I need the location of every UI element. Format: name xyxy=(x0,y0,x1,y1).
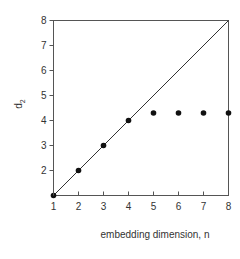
y-tick-label: 8 xyxy=(41,15,47,26)
data-point xyxy=(176,110,182,116)
data-point xyxy=(226,110,232,116)
y-tick-label: 6 xyxy=(41,65,47,76)
y-axis-ticks: 2345678 xyxy=(41,15,54,176)
x-tick-label: 2 xyxy=(76,201,82,212)
x-tick-label: 5 xyxy=(151,201,157,212)
y-tick-label: 3 xyxy=(41,140,47,151)
x-tick-label: 4 xyxy=(126,201,132,212)
data-point xyxy=(151,110,157,116)
data-point xyxy=(201,110,207,116)
data-markers xyxy=(51,110,232,198)
y-tick-label: 7 xyxy=(41,40,47,51)
chart: 12345678 2345678 embedding dimension, n … xyxy=(0,0,240,259)
x-tick-label: 6 xyxy=(176,201,182,212)
x-tick-label: 3 xyxy=(101,201,107,212)
data-point xyxy=(76,168,82,174)
x-tick-label: 1 xyxy=(51,201,57,212)
x-axis-ticks: 12345678 xyxy=(51,192,232,212)
data-point xyxy=(126,118,132,124)
y-tick-label: 2 xyxy=(41,165,47,176)
y-tick-label: 4 xyxy=(41,115,47,126)
x-tick-label: 8 xyxy=(226,201,232,212)
svg-text:d2: d2 xyxy=(13,99,26,109)
data-point xyxy=(101,143,107,149)
y-tick-label: 5 xyxy=(41,90,47,101)
y-axis-title: d2 xyxy=(13,99,26,109)
x-tick-label: 7 xyxy=(201,201,207,212)
x-axis-title: embedding dimension, n xyxy=(101,229,210,240)
